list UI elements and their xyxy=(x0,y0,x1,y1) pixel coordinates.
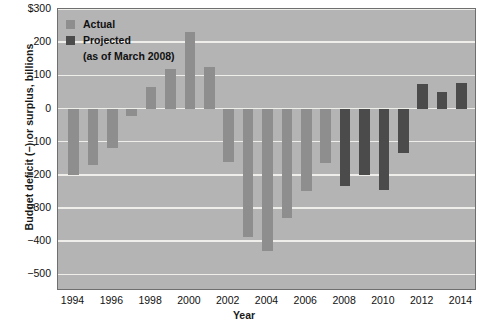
x-axis-title: Year xyxy=(0,309,488,321)
legend-item-actual: Actual xyxy=(66,16,175,32)
legend-swatch-actual xyxy=(66,20,75,29)
bar-1996 xyxy=(107,109,118,148)
legend-label-actual: Actual xyxy=(83,18,115,30)
y-tick-text: 100 xyxy=(33,68,51,80)
legend-label-projected: Projected xyxy=(83,34,131,46)
y-tick-text: 0 xyxy=(45,102,51,114)
x-tick-label: 2014 xyxy=(449,294,472,306)
x-tick-label: 2008 xyxy=(332,294,355,306)
bar-1994 xyxy=(68,109,79,175)
bar-2000 xyxy=(185,32,196,108)
x-tick-label: 2000 xyxy=(177,294,200,306)
chart-figure: Budget deficit (−) or surplus, billions … xyxy=(0,0,488,325)
y-tick-text: −300 xyxy=(27,201,51,213)
bar-2007 xyxy=(320,109,331,164)
bar-1995 xyxy=(88,109,99,165)
gridline xyxy=(58,274,475,276)
gridline xyxy=(58,8,475,10)
legend-item-projected: Projected xyxy=(66,32,175,48)
x-tick-label: 2012 xyxy=(410,294,433,306)
x-tick-label: 2006 xyxy=(294,294,317,306)
bar-2014 xyxy=(456,83,467,109)
bar-2010 xyxy=(379,109,390,191)
x-tick-label: 2002 xyxy=(216,294,239,306)
bar-1997 xyxy=(126,109,137,116)
bar-2002 xyxy=(223,109,234,162)
x-tick-label: 2010 xyxy=(371,294,394,306)
bar-1999 xyxy=(165,69,176,109)
legend: Actual Projected (as of March 2008) xyxy=(66,16,175,64)
y-tick-text: −100 xyxy=(27,135,51,147)
bar-2006 xyxy=(301,109,312,192)
bar-2012 xyxy=(417,84,428,109)
legend-swatch-projected xyxy=(66,36,75,45)
bar-2009 xyxy=(359,109,370,175)
gridline xyxy=(58,75,475,77)
x-tick-label: 1994 xyxy=(61,294,84,306)
y-tick-text: −500 xyxy=(27,267,51,279)
bar-2011 xyxy=(398,109,409,154)
x-tick-label: 1998 xyxy=(138,294,161,306)
x-tick-label: 2004 xyxy=(255,294,278,306)
y-tick-text: $300 xyxy=(28,2,51,14)
bar-2005 xyxy=(282,109,293,218)
bar-2004 xyxy=(262,109,273,251)
y-tick-text: 200 xyxy=(33,35,51,47)
bar-2001 xyxy=(204,67,215,109)
y-tick-text: −400 xyxy=(27,234,51,246)
bar-2013 xyxy=(437,92,448,109)
bar-2003 xyxy=(243,109,254,238)
legend-note: (as of March 2008) xyxy=(83,48,175,64)
bar-1998 xyxy=(146,87,157,109)
y-tick-text: −200 xyxy=(27,168,51,180)
x-tick-label: 1996 xyxy=(100,294,123,306)
bar-2008 xyxy=(340,109,351,187)
